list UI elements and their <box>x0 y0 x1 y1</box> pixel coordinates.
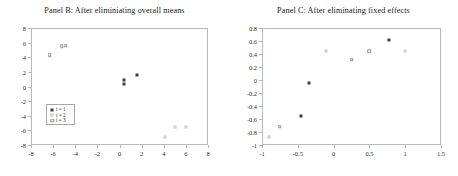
y-axis-tick-label: -0.6 <box>229 116 257 123</box>
x-tick-mark <box>186 145 187 148</box>
y-tick-mark <box>28 116 31 117</box>
data-point <box>173 126 176 129</box>
x-tick-mark <box>31 145 32 148</box>
y-tick-mark <box>28 101 31 102</box>
x-axis-tick-label: -8 <box>28 150 33 157</box>
x-axis-tick-label: 1 <box>404 150 407 157</box>
x-tick-mark <box>164 145 165 148</box>
legend-item-i3: i = 3 <box>50 118 72 124</box>
legend-marker-open-square-icon <box>50 118 55 124</box>
x-tick-mark <box>298 145 299 148</box>
panel-b: Panel B: After eliminiating overall mean… <box>0 0 229 176</box>
y-tick-mark <box>259 54 262 55</box>
panel-b-title: Panel B: After eliminiating overall mean… <box>0 6 229 15</box>
y-axis-tick-label: 0.2 <box>229 64 257 71</box>
y-axis-tick-label: 0 <box>229 77 257 84</box>
x-axis-tick-label: -6 <box>50 150 55 157</box>
data-point <box>123 82 126 85</box>
y-axis-tick-label: -0.8 <box>229 129 257 136</box>
data-point <box>368 50 372 54</box>
data-point <box>268 135 271 138</box>
y-axis-tick-label: -4 <box>0 112 26 119</box>
data-point <box>300 115 303 118</box>
y-axis-tick-label: -6 <box>0 127 26 134</box>
y-axis-tick-label: -8 <box>0 142 26 149</box>
data-point <box>278 125 282 129</box>
x-tick-mark <box>262 145 263 148</box>
data-point <box>307 81 310 84</box>
y-axis-tick-label: 6 <box>0 39 26 46</box>
x-axis-tick-label: 6 <box>184 150 187 157</box>
y-tick-mark <box>259 119 262 120</box>
panel-c: Panel C: After eliminating fixed effects… <box>229 0 458 176</box>
y-tick-mark <box>259 67 262 68</box>
y-axis-tick-label: 0.6 <box>229 38 257 45</box>
data-point <box>163 135 166 138</box>
x-tick-mark <box>369 145 370 148</box>
y-axis-tick-label: -2 <box>0 98 26 105</box>
data-point <box>184 126 187 129</box>
y-axis-tick-label: -0.2 <box>229 90 257 97</box>
y-tick-mark <box>28 57 31 58</box>
y-tick-mark <box>259 106 262 107</box>
y-axis-tick-label: 4 <box>0 54 26 61</box>
x-axis-tick-label: -1 <box>259 150 264 157</box>
y-tick-mark <box>28 72 31 73</box>
data-point <box>136 74 139 77</box>
x-axis-tick-label: 8 <box>206 150 209 157</box>
y-axis-tick-label: 8 <box>0 25 26 32</box>
y-axis-tick-label: 0.8 <box>229 25 257 32</box>
panel-b-legend: i = 1 i = 2 i = 3 <box>46 104 75 125</box>
data-point <box>325 49 328 52</box>
data-point <box>387 38 390 41</box>
x-axis-tick-label: -4 <box>73 150 78 157</box>
y-axis-tick-label: 0.4 <box>229 51 257 58</box>
panel-c-plot-area <box>262 28 441 145</box>
x-axis-tick-label: 4 <box>162 150 165 157</box>
x-tick-mark <box>405 145 406 148</box>
x-tick-mark <box>75 145 76 148</box>
y-tick-mark <box>259 80 262 81</box>
x-tick-mark <box>53 145 54 148</box>
x-tick-mark <box>334 145 335 148</box>
y-tick-mark <box>28 28 31 29</box>
panel-c-title: Panel C: After eliminating fixed effects <box>229 6 458 15</box>
x-tick-mark <box>441 145 442 148</box>
x-tick-mark <box>208 145 209 148</box>
y-axis-tick-label: -1 <box>229 142 257 149</box>
figure-canvas: Panel B: After eliminiating overall mean… <box>0 0 458 176</box>
x-axis-tick-label: 0.5 <box>365 150 373 157</box>
panel-b-plot-area <box>31 28 208 145</box>
data-point <box>123 78 126 81</box>
x-axis-tick-label: -2 <box>95 150 100 157</box>
y-axis-tick-label: 2 <box>0 68 26 75</box>
y-tick-mark <box>28 43 31 44</box>
y-tick-mark <box>28 130 31 131</box>
data-point <box>48 53 52 57</box>
x-tick-mark <box>120 145 121 148</box>
data-point <box>350 58 354 62</box>
y-axis-tick-label: -0.4 <box>229 103 257 110</box>
data-point <box>404 49 407 52</box>
x-axis-tick-label: 1.5 <box>437 150 445 157</box>
y-tick-mark <box>259 132 262 133</box>
x-axis-tick-label: 0 <box>118 150 121 157</box>
x-tick-mark <box>142 145 143 148</box>
x-axis-tick-label: 0 <box>332 150 335 157</box>
y-tick-mark <box>259 28 262 29</box>
x-axis-tick-label: 2 <box>140 150 143 157</box>
legend-label-i3: i = 3 <box>56 118 66 124</box>
y-tick-mark <box>259 93 262 94</box>
data-point <box>64 44 68 48</box>
x-axis-tick-label: -0.5 <box>293 150 303 157</box>
x-tick-mark <box>97 145 98 148</box>
y-tick-mark <box>259 41 262 42</box>
y-axis-tick-label: 0 <box>0 83 26 90</box>
y-tick-mark <box>28 87 31 88</box>
